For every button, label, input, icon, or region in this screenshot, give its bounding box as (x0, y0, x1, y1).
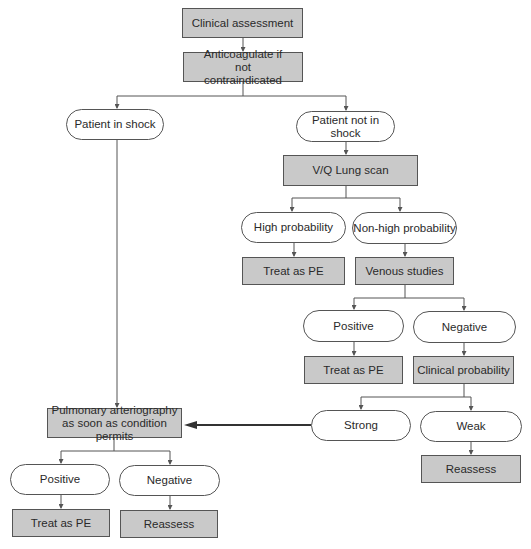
clinical-assessment-box: Clinical assessment (182, 8, 303, 38)
vq-scan-label: V/Q Lung scan (312, 164, 388, 177)
venous-positive-pill: Positive (303, 310, 404, 342)
treat-as-pe-label-1: Treat as PE (263, 265, 323, 278)
weak-label: Weak (456, 420, 485, 433)
weak-pill: Weak (420, 411, 522, 442)
venous-studies-label: Venous studies (365, 265, 443, 278)
venous-negative-pill: Negative (413, 311, 516, 343)
strong-pill: Strong (311, 410, 411, 441)
treat-as-pe-label-2: Treat as PE (323, 364, 383, 377)
patient-in-shock-label: Patient in shock (74, 118, 155, 131)
clinical-probability-box: Clinical probability (413, 356, 514, 384)
non-high-probability-label: Non-high probability (353, 222, 455, 235)
reassess-label-1: Reassess (446, 463, 497, 476)
arteriography-positive-pill: Positive (10, 464, 110, 495)
strong-label: Strong (344, 419, 378, 432)
arteriography-negative-pill: Negative (119, 465, 220, 496)
reassess-box-1: Reassess (421, 455, 521, 483)
venous-negative-label: Negative (442, 321, 487, 334)
venous-studies-box: Venous studies (355, 257, 454, 285)
venous-positive-label: Positive (333, 320, 373, 333)
clinical-probability-label: Clinical probability (417, 364, 510, 377)
reassess-box-2: Reassess (120, 510, 218, 538)
patient-not-in-shock-pill: Patient not in shock (296, 111, 395, 142)
arteriography-positive-label: Positive (40, 473, 80, 486)
clinical-assessment-label: Clinical assessment (192, 17, 294, 30)
pulmonary-arteriography-label: Pulmonary arteriography as soon as condi… (50, 404, 179, 443)
non-high-probability-pill: Non-high probability (352, 212, 457, 244)
pe-workup-flowchart: Clinical assessment Anticoagulate if not… (0, 0, 531, 549)
reassess-label-2: Reassess (144, 518, 195, 531)
patient-not-in-shock-label: Patient not in shock (297, 114, 394, 140)
anticoagulate-label: Anticoagulate if not contraindicated (198, 48, 288, 87)
treat-as-pe-box-2: Treat as PE (304, 356, 403, 384)
patient-in-shock-pill: Patient in shock (66, 109, 164, 140)
vq-scan-box: V/Q Lung scan (283, 155, 418, 186)
treat-as-pe-box-3: Treat as PE (12, 509, 110, 537)
pulmonary-arteriography-box: Pulmonary arteriography as soon as condi… (47, 408, 182, 438)
high-probability-pill: High probability (241, 212, 346, 243)
anticoagulate-box: Anticoagulate if not contraindicated (183, 52, 303, 82)
arteriography-negative-label: Negative (147, 474, 192, 487)
treat-as-pe-box-1: Treat as PE (242, 257, 345, 285)
treat-as-pe-label-3: Treat as PE (31, 517, 91, 530)
high-probability-label: High probability (254, 221, 333, 234)
